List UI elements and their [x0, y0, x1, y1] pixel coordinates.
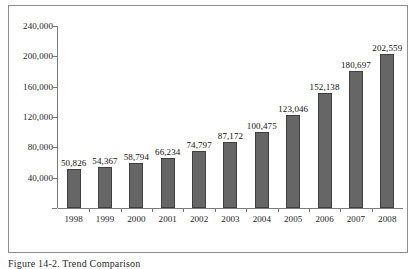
x-axis-tick-mark: [372, 208, 373, 212]
bar-slot: 50,826: [58, 26, 89, 208]
bar[interactable]: [192, 151, 206, 208]
x-axis-tick-label: 1998: [64, 214, 82, 224]
x-axis-tick-label: 2003: [221, 214, 239, 224]
x-axis-tick-mark: [215, 208, 216, 212]
x-axis-line: [58, 208, 403, 209]
bar[interactable]: [286, 115, 300, 208]
x-axis-tick-mark: [183, 208, 184, 212]
bar[interactable]: [98, 167, 112, 208]
bar[interactable]: [349, 71, 363, 208]
x-axis-tick-label: 1999: [96, 214, 114, 224]
y-axis-tick-mark: [52, 26, 57, 27]
bar-slot: 66,234: [152, 26, 183, 208]
bar-slot: 202,559: [372, 26, 403, 208]
y-axis-label-group: 240,000200,000160,000120,00080,00040,000: [9, 6, 53, 252]
y-axis-tick-mark: [52, 56, 57, 57]
y-axis-tick-mark: [52, 178, 57, 179]
x-axis-tick-label: 2007: [347, 214, 365, 224]
y-axis-tick-mark: [52, 147, 57, 148]
bar-slot: 152,138: [309, 26, 340, 208]
bar-slot: 123,046: [278, 26, 309, 208]
bar[interactable]: [380, 54, 394, 208]
y-axis-tick-label: 200,000: [23, 51, 53, 61]
bar-slot: 100,475: [246, 26, 277, 208]
plot-bars-area: 50,82654,36758,79466,23474,79787,172100,…: [58, 26, 403, 208]
bar-chart: 240,000200,000160,000120,00080,00040,000…: [9, 6, 407, 252]
x-axis-tick-label: 2008: [378, 214, 396, 224]
bar-value-label: 74,797: [186, 140, 211, 150]
bar[interactable]: [223, 142, 237, 208]
bar-value-label: 123,046: [278, 104, 308, 114]
bar[interactable]: [318, 93, 332, 208]
bar-slot: 58,794: [121, 26, 152, 208]
bar-value-label: 58,794: [124, 152, 149, 162]
bar-value-label: 180,697: [341, 60, 371, 70]
y-axis-tick-mark: [52, 87, 57, 88]
x-axis-tick-mark: [152, 208, 153, 212]
bar[interactable]: [255, 132, 269, 208]
x-axis-tick-label: 2000: [127, 214, 145, 224]
x-axis-tick-label: 2004: [253, 214, 271, 224]
bar[interactable]: [161, 158, 175, 208]
x-axis-tick-label: 2001: [159, 214, 177, 224]
figure-frame: 240,000200,000160,000120,00080,00040,000…: [8, 5, 408, 253]
bar-value-label: 152,138: [310, 82, 340, 92]
bar-value-label: 100,475: [247, 121, 277, 131]
bar-value-label: 202,559: [372, 43, 402, 53]
bar-value-label: 50,826: [61, 158, 86, 168]
bar-slot: 180,697: [340, 26, 371, 208]
x-axis-tick-mark: [309, 208, 310, 212]
x-axis-tick-label: 2005: [284, 214, 302, 224]
x-axis-label-group: 1998199920002001200220032004200520062007…: [58, 212, 403, 228]
y-axis-tick-mark: [52, 117, 57, 118]
y-axis-tick-label: 40,000: [28, 173, 53, 183]
bar[interactable]: [129, 163, 143, 208]
x-axis-tick-mark: [89, 208, 90, 212]
y-axis-tick-mark: [52, 208, 57, 209]
bar-slot: 74,797: [183, 26, 214, 208]
x-axis-tick-mark: [340, 208, 341, 212]
figure-caption: Figure 14-2. Trend Comparison: [8, 258, 140, 269]
bar-value-label: 54,367: [92, 156, 117, 166]
bar-slot: 54,367: [89, 26, 120, 208]
y-axis-tick-label: 160,000: [23, 82, 53, 92]
y-axis-tick-label: 240,000: [23, 21, 53, 31]
x-axis-tick-label: 2002: [190, 214, 208, 224]
x-axis-tick-mark: [278, 208, 279, 212]
bar-value-label: 87,172: [218, 131, 243, 141]
bar[interactable]: [67, 169, 81, 208]
x-axis-tick-mark: [121, 208, 122, 212]
x-axis-tick-mark: [246, 208, 247, 212]
y-axis-tick-label: 80,000: [28, 142, 53, 152]
bar-value-label: 66,234: [155, 147, 180, 157]
bar-slot: 87,172: [215, 26, 246, 208]
y-axis-tick-label: 120,000: [23, 112, 53, 122]
x-axis-tick-label: 2006: [315, 214, 333, 224]
